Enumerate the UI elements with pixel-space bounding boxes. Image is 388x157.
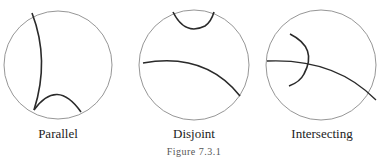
label-intersecting: Intersecting: [262, 126, 382, 142]
label-disjoint: Disjoint: [134, 126, 254, 142]
poincare-disk-intersecting: [266, 10, 376, 120]
geodesic-long-arc: [267, 61, 376, 100]
figure-caption: Figure 7.3.1: [134, 146, 254, 157]
geodesic-long-arc: [143, 61, 240, 96]
geodesic-small-arc: [34, 94, 81, 112]
poincare-disk-parallel: [4, 11, 112, 119]
geodesic-top-arc: [173, 12, 214, 29]
panel-parallel: [4, 11, 112, 119]
geodesic-long-arc: [32, 13, 42, 110]
geodesic-left-arc: [289, 34, 309, 86]
panel-intersecting: [266, 10, 376, 120]
panel-disjoint: [139, 10, 249, 120]
label-parallel: Parallel: [0, 126, 118, 142]
